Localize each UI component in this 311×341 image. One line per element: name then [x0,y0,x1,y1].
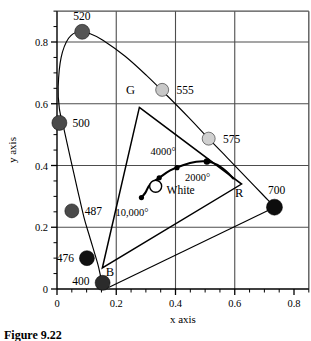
wavelength-label-555: 555 [176,84,194,96]
blackbody-marker [204,158,210,164]
wavelength-marker-700 [266,199,282,215]
wavelength-marker-520 [75,24,90,39]
gamut-vertex-label-G: G [126,83,135,97]
wavelength-label-487: 487 [85,205,103,217]
wavelength-label-700: 700 [268,184,286,196]
blackbody-marker [174,165,179,170]
x-tick-label: 0.8 [287,298,300,309]
wavelength-label-520: 520 [73,10,91,22]
wavelength-label-575: 575 [223,133,241,145]
x-tick-label: 0 [54,298,59,309]
figure-caption: Figure 9.22 [4,328,62,341]
wavelength-marker-500 [52,115,67,130]
gamut-vertex-label-R: R [235,186,244,200]
figure-container: 00.20.40.60.800.20.40.60.8x axisy axisGR… [0,0,311,341]
wavelength-marker-575 [202,132,215,145]
chromaticity-diagram-svg: 00.20.40.60.800.20.40.60.8x axisy axisGR… [0,0,311,341]
y-tick-label: 0.6 [35,99,48,110]
y-tick-label: 0 [43,284,48,295]
wavelength-label-476: 476 [57,252,75,264]
y-tick-label: 0.2 [35,222,48,233]
wavelength-marker-400 [95,275,110,290]
wavelength-marker-476 [79,251,94,266]
x-tick-label: 0.6 [228,298,241,309]
white-point-marker [150,180,162,192]
white-point-label: White [167,184,195,196]
y-axis-title: y axis [6,137,18,163]
x-tick-label: 0.2 [110,298,123,309]
blackbody-marker [157,175,162,180]
wavelength-marker-487 [65,204,79,218]
blackbody-temp-label: 10,000° [115,207,148,218]
blackbody-marker [139,195,144,200]
wavelength-label-500: 500 [72,117,90,129]
y-tick-label: 0.4 [35,161,49,172]
x-tick-label: 0.4 [169,298,183,309]
wavelength-marker-555 [156,83,169,96]
wavelength-label-400: 400 [72,275,90,287]
x-axis-title: x axis [170,313,196,325]
blackbody-temp-label: 4000° [150,146,175,157]
spectral-locus-curve [58,31,275,287]
purple-line [109,207,275,287]
blackbody-temp-label: 2000° [185,172,210,183]
y-tick-label: 0.8 [35,37,48,48]
